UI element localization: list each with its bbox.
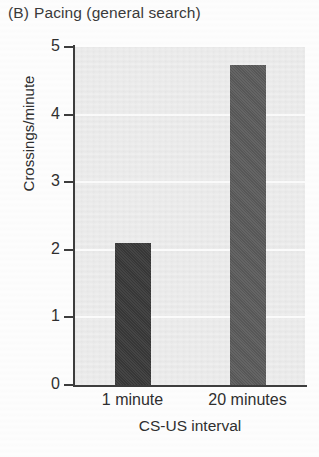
y-axis-title: Crossings/minute [20,44,37,224]
y-axis-tick-label: 3 [0,173,60,189]
y-axis-tick [64,249,75,251]
y-axis-tick [64,181,75,183]
x-axis-tick-label: 20 minutes [188,391,308,409]
bar-texture [115,243,151,385]
y-axis-tick-label: 5 [0,38,60,54]
gridline [75,181,305,183]
y-axis-tick-label: 2 [0,241,60,257]
y-axis-tick [64,46,75,48]
gridline [75,114,305,116]
figure-title: (B)Pacing (general search) [8,4,201,22]
y-axis-tick [64,384,75,386]
plot-area [75,47,305,385]
panel-letter: (B) [8,4,29,21]
x-axis-title: CS-US interval [75,417,305,435]
x-axis-tick-label: 1 minute [73,391,193,409]
y-axis-tick-label: 0 [0,376,60,392]
gridline [75,249,305,251]
figure-title-text: Pacing (general search) [34,4,201,21]
x-axis-line [73,385,307,387]
gridline [75,316,305,318]
bar [115,243,151,385]
bar-texture [230,65,266,385]
y-axis-line [73,45,75,387]
bar [230,65,266,385]
y-axis-tick-label: 1 [0,308,60,324]
y-axis-tick-label: 4 [0,106,60,122]
y-axis-tick [64,114,75,116]
plot-background-texture [75,47,305,385]
y-axis-tick [64,316,75,318]
